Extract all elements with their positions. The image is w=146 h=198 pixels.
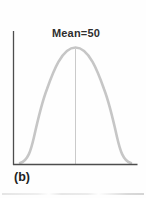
mean-annotation: Mean=50: [52, 27, 100, 39]
figure-caption: (b): [14, 170, 30, 184]
scan-artifact: [2, 193, 144, 195]
normal-distribution-figure: Mean=50 (b): [0, 0, 146, 198]
